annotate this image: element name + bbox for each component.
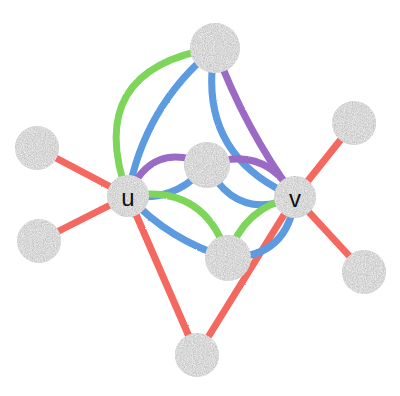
nodes-layer: uv: [15, 23, 386, 377]
node-texture: [190, 23, 240, 73]
graph-node[interactable]: [17, 219, 61, 263]
graph-node[interactable]: [175, 333, 219, 377]
graph-node[interactable]: [342, 250, 386, 294]
node-texture: [184, 142, 230, 188]
graph-node[interactable]: [205, 235, 251, 281]
node-texture: [342, 250, 386, 294]
node-texture: [15, 126, 59, 170]
node-texture: [205, 235, 251, 281]
graph-node[interactable]: [190, 23, 240, 73]
graph-canvas: uv: [0, 0, 400, 396]
node-texture: [175, 333, 219, 377]
graph-edge: [128, 196, 197, 355]
graph-node[interactable]: [332, 101, 376, 145]
graph-node-v[interactable]: v: [274, 176, 316, 218]
graph-node[interactable]: [184, 142, 230, 188]
graph-svg: uv: [0, 0, 400, 396]
node-texture: [332, 101, 376, 145]
node-texture: [107, 175, 149, 217]
node-texture: [17, 219, 61, 263]
graph-node-u[interactable]: u: [107, 175, 149, 217]
node-texture: [274, 176, 316, 218]
graph-node[interactable]: [15, 126, 59, 170]
